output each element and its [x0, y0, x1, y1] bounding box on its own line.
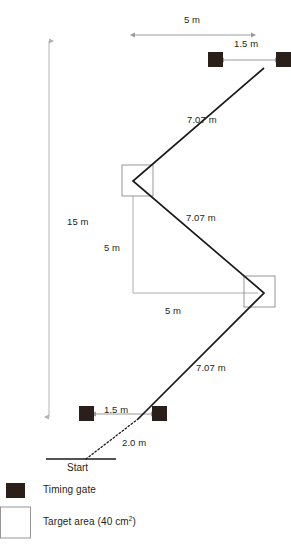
legend-swatch-target-area	[1, 507, 31, 538]
construction-line-L	[133, 196, 258, 293]
legend-target-area-tail: )	[132, 516, 135, 527]
timing-gate-top-right	[276, 52, 291, 67]
timing-gate-bottom-left	[79, 406, 94, 421]
label-diagonal-middle: 7.07 m	[186, 212, 216, 223]
label-total-length: 15 m	[67, 216, 89, 227]
timing-gate-bottom-right	[152, 406, 167, 421]
target-area-upper	[122, 165, 153, 196]
agility-course-diagram: 5 m 1.5 m 15 m 5 m 5 m 7.07 m 7.07 m 7.0…	[0, 0, 291, 556]
label-bottom-gate-gap: 1.5 m	[104, 404, 128, 415]
legend-target-area-text: Target area (40 cm	[43, 516, 129, 527]
label-mid-horizontal: 5 m	[165, 305, 181, 316]
label-start: Start	[67, 462, 88, 473]
label-top-gate-gap: 1.5 m	[234, 38, 258, 49]
label-diagonal-top: 7.07 m	[187, 114, 217, 125]
label-diagonal-bottom: 7.07 m	[196, 362, 226, 373]
label-start-run: 2.0 m	[122, 437, 146, 448]
label-mid-vertical: 5 m	[104, 242, 120, 253]
label-top-width: 5 m	[184, 14, 200, 25]
legend-label-target-area: Target area (40 cm2)	[43, 515, 136, 527]
timing-gate-top-left	[208, 52, 223, 67]
course-svg	[0, 0, 291, 556]
legend-label-timing-gate: Timing gate	[43, 484, 96, 495]
legend-swatch-timing-gate	[6, 483, 25, 498]
